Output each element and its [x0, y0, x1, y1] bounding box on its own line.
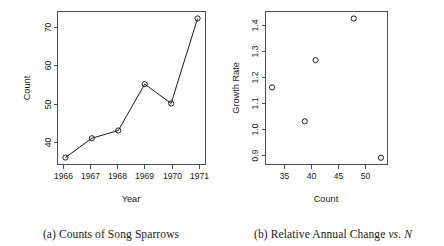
panel-a-caption-text: Counts of Song Sparrows [59, 228, 179, 240]
plot-b-xtick-label: 40 [307, 171, 317, 181]
plot-b-x-axis: 35 40 45 50 [280, 165, 371, 182]
plot-a-xtick-label: 1969 [135, 171, 154, 181]
plot-a-svg: 70 60 50 40 1966 1967 1968 1969 [0, 0, 222, 212]
plot-a-xtick-label: 1970 [163, 171, 182, 181]
plot-b-xtick-label: 50 [361, 171, 371, 181]
plot-a-xtick-label: 1967 [81, 171, 100, 181]
panel-a-caption-prefix: (a) [43, 228, 56, 240]
plot-b-ytick-label: 1.0 [250, 123, 260, 135]
plot-b: 1.4 1.3 1.2 1.1 1.0 0.9 35 40 45 50 [222, 0, 444, 212]
plot-a-data-line [65, 18, 197, 157]
plot-a-data-points [63, 16, 200, 160]
plot-b-xtick-label: 35 [280, 171, 290, 181]
plot-a-xtick-label: 1971 [190, 171, 209, 181]
plot-b-y-axis: 1.4 1.3 1.2 1.1 1.0 0.9 [250, 19, 266, 161]
plot-b-ytick-label: 1.4 [250, 19, 260, 31]
plot-a-xlabel: Year [122, 194, 141, 204]
plot-b-ytick-label: 1.2 [250, 71, 260, 83]
data-point [302, 119, 307, 124]
data-point [351, 16, 356, 21]
plot-b-svg: 1.4 1.3 1.2 1.1 1.0 0.9 35 40 45 50 [222, 0, 444, 212]
panel-b-caption-n: N [404, 228, 412, 240]
plot-a-x-axis: 1966 1967 1968 1969 1970 1971 [54, 165, 209, 182]
figure-panel-b: 1.4 1.3 1.2 1.1 1.0 0.9 35 40 45 50 [222, 0, 444, 246]
data-point [313, 58, 318, 63]
panel-b-caption: (b) Relative Annual Change vs. N [222, 228, 444, 240]
plot-b-ytick-label: 1.1 [250, 97, 260, 109]
plot-b-ylabel: Growth Rate [231, 62, 241, 114]
plot-b-xtick-label: 45 [334, 171, 344, 181]
plot-a-ytick-label: 40 [43, 138, 53, 148]
data-point [269, 85, 274, 90]
figure-row: 70 60 50 40 1966 1967 1968 1969 [0, 0, 444, 246]
panel-a-caption: (a) Counts of Song Sparrows [0, 228, 222, 240]
panel-b-caption-text: Relative Annual Change [271, 228, 386, 240]
figure-panel-a: 70 60 50 40 1966 1967 1968 1969 [0, 0, 222, 246]
plot-a-ylabel: Count [22, 75, 32, 100]
panel-b-caption-vs: vs. [388, 228, 401, 240]
plot-a-frame [58, 12, 206, 165]
plot-a: 70 60 50 40 1966 1967 1968 1969 [0, 0, 222, 212]
plot-a-y-axis: 70 60 50 40 [43, 23, 58, 148]
panel-b-caption-prefix: (b) [254, 228, 268, 240]
plot-a-xtick-label: 1966 [54, 171, 73, 181]
plot-a-ytick-label: 70 [43, 23, 53, 33]
plot-a-xtick-label: 1968 [108, 171, 127, 181]
plot-b-ytick-label: 0.9 [250, 149, 260, 161]
plot-a-ytick-label: 50 [43, 100, 53, 110]
plot-b-frame [266, 12, 388, 165]
plot-b-data-points [269, 16, 383, 160]
plot-b-xlabel: Count [314, 194, 339, 204]
plot-a-ytick-label: 60 [43, 61, 53, 71]
data-point [378, 155, 383, 160]
plot-b-ytick-label: 1.3 [250, 45, 260, 57]
